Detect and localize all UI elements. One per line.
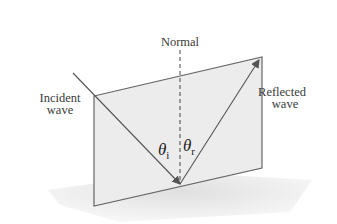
incident-wave-label: Incident wave: [28, 92, 92, 116]
normal-label: Normal: [152, 36, 208, 48]
theta-i-label: θi: [158, 140, 169, 161]
theta-r-label: θr: [183, 136, 195, 157]
reflection-diagram: Normal Incident wave Reflected wave θi θ…: [0, 0, 337, 224]
reflected-wave-label: Reflected wave: [248, 86, 316, 110]
